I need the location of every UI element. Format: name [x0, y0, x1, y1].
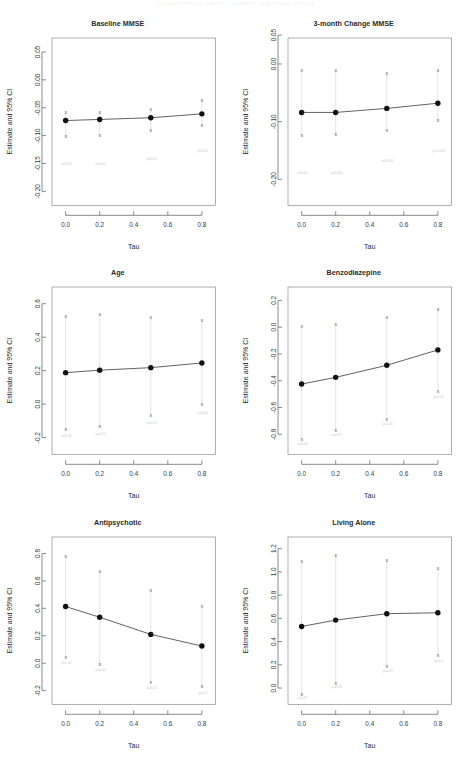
x-tick-label: 0.2 [95, 720, 104, 727]
ci-upper-marker: x [98, 311, 101, 317]
y-tick-label: 0.05 [269, 28, 276, 41]
estimate-point [384, 106, 389, 111]
x-tick-label: 0.0 [61, 471, 70, 478]
x-axis-label: Tau [128, 243, 139, 250]
x-tick-label: 0.0 [297, 221, 306, 228]
y-tick-label: 0.00 [34, 73, 41, 86]
y-axis-label: Estimate and 95% CI [242, 338, 249, 404]
x-tick-label: 0.4 [129, 720, 138, 727]
x-tick-label: 0.8 [197, 221, 206, 228]
y-axis-label: Estimate and 95% CI [242, 587, 249, 653]
ci-upper-marker: x [300, 557, 303, 563]
p-value-annotation: p=0.22 [96, 432, 106, 436]
x-tick-label: 0.0 [61, 720, 70, 727]
ci-lower-marker: x [64, 654, 67, 660]
y-tick-label: 0.00 [269, 57, 276, 70]
x-tick-label: 0.8 [433, 471, 442, 478]
estimate-point [298, 382, 303, 387]
ci-upper-marker: x [300, 324, 303, 330]
estimate-point [63, 118, 68, 123]
chart-title: Baseline MMSE [91, 19, 144, 28]
ci-upper-marker: x [334, 321, 337, 327]
chart-panel-three-month-change-mmse: 3-month Change MMSE0.050.00-0.10-0.20Est… [236, 12, 471, 261]
y-tick-label: 0.6 [269, 613, 276, 622]
ci-lower-marker: x [64, 133, 67, 139]
y-tick-label: 0.0 [269, 683, 276, 692]
y-tick-label: 0.6 [34, 299, 41, 308]
y-tick-label: -0.05 [34, 100, 41, 115]
p-value-annotation: p=0.07 [331, 433, 341, 437]
estimate-point [298, 623, 303, 628]
chart-panel-antipsychotic: Antipsychotic0.80.60.40.20.0-0.2Estimate… [0, 511, 236, 760]
x-tick-label: 0.6 [399, 471, 408, 478]
y-tick-label: -0.2 [34, 432, 41, 443]
x-tick-label: 0.6 [399, 221, 408, 228]
plot-frame [288, 287, 452, 454]
y-tick-label: 0.8 [34, 548, 41, 557]
ci-upper-marker: x [385, 556, 388, 562]
ci-upper-marker: x [150, 106, 153, 112]
x-tick-label: 0.4 [365, 221, 374, 228]
y-tick-label: 0.2 [269, 660, 276, 669]
chart-title: Antipsychotic [94, 518, 142, 527]
plot-frame [52, 287, 216, 454]
page-header: Supplementary Figure : quantile regressi… [0, 0, 471, 12]
ci-upper-marker: x [201, 603, 204, 609]
y-tick-label: 0.2 [34, 631, 41, 640]
ci-upper-marker: x [150, 587, 153, 593]
estimate-line [301, 103, 437, 112]
y-tick-label: -0.15 [34, 156, 41, 171]
ci-upper-marker: x [436, 67, 439, 73]
estimate-point [332, 617, 337, 622]
y-tick-label: -0.20 [34, 184, 41, 199]
ci-lower-marker: x [436, 652, 439, 658]
x-tick-label: 0.6 [163, 720, 172, 727]
p-value-annotation: p=0.15 [147, 422, 157, 426]
y-tick-label: -0.2 [34, 684, 41, 695]
ci-upper-marker: x [334, 67, 337, 73]
x-axis-label: Tau [128, 742, 139, 749]
chart-title: Age [111, 268, 125, 277]
x-tick-label: 0.4 [365, 720, 374, 727]
ci-lower-marker: x [98, 661, 101, 667]
p-value-annotation: p=0.15 [147, 686, 157, 690]
ci-upper-marker: x [150, 315, 153, 321]
ci-lower-marker: x [150, 413, 153, 419]
ci-upper-marker: x [201, 97, 204, 103]
p-value-annotation: p<0.001 [381, 159, 393, 163]
estimate-line [66, 606, 202, 645]
y-tick-label: 1.2 [269, 543, 276, 552]
estimate-point [63, 370, 68, 375]
y-tick-label: 0.8 [269, 590, 276, 599]
estimate-point [97, 614, 102, 619]
ci-lower-marker: x [385, 416, 388, 422]
p-value-annotation: p<0.01 [198, 149, 208, 153]
y-tick-label: -0.10 [269, 114, 276, 129]
estimate-line [301, 350, 437, 384]
y-axis-label: Estimate and 95% CI [242, 89, 249, 155]
x-tick-label: 0.8 [433, 720, 442, 727]
ci-upper-marker: x [385, 314, 388, 320]
ci-upper-marker: x [334, 552, 337, 558]
p-value-annotation: p=0.4 [199, 691, 208, 695]
x-tick-label: 0.0 [297, 471, 306, 478]
chart-panel-living-alone: Living Alone1.21.00.80.60.40.20.0Estimat… [236, 511, 471, 760]
estimate-point [332, 375, 337, 380]
x-tick-label: 0.2 [331, 221, 340, 228]
x-tick-label: 0.4 [129, 471, 138, 478]
p-value-annotation: p=0.06 [198, 411, 208, 415]
ci-lower-marker: x [98, 424, 101, 430]
ci-lower-marker: x [385, 127, 388, 133]
ci-lower-marker: x [436, 117, 439, 123]
chart-panel-age: Age0.60.40.20.0-0.2Estimate and 95% CI0.… [0, 261, 236, 510]
estimate-line [66, 363, 202, 373]
chart-panel-benzodiazepine: Benzodiazepine0.20.0-0.2-0.4-0.6-0.8Esti… [236, 261, 471, 510]
x-tick-label: 0.0 [61, 221, 70, 228]
estimate-line [301, 612, 437, 626]
p-value-annotation: p=0.26 [62, 435, 72, 439]
ci-lower-marker: x [334, 131, 337, 137]
ci-upper-marker: x [436, 306, 439, 312]
x-tick-label: 0.2 [331, 720, 340, 727]
ci-upper-marker: x [436, 565, 439, 571]
y-tick-label: 0.4 [34, 333, 41, 342]
